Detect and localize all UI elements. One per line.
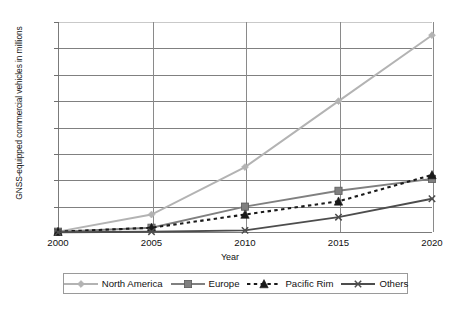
chart-figure: GNSS-equipped commercial vehicles in mil… [0,0,460,309]
y-axis-tick [54,207,59,208]
legend-key-icon [170,278,206,290]
y-axis-tick [54,101,59,102]
x-axis-tick-label: 2000 [28,238,88,248]
legend-label: Europe [209,279,240,289]
legend-item-others[interactable]: Others [340,278,408,290]
legend-label: Others [379,279,408,289]
plot-area [58,22,432,233]
legend-item-north-america[interactable]: North America [63,278,163,290]
legend-key-icon [340,278,376,290]
y-axis-tick [54,233,59,234]
x-axis-title: Year [0,252,460,262]
y-axis-tick [54,128,59,129]
gridline-x [246,22,247,232]
gridline-x [433,22,434,232]
x-axis-tick-label: 2020 [402,238,460,248]
y-axis-tick [54,22,59,23]
gridline-x [153,22,154,232]
y-axis-title: GNSS-equipped commercial vehicles in mil… [14,0,24,228]
legend-key-icon [246,278,282,290]
gridline-x [340,22,341,232]
x-axis-tick-label: 2010 [215,238,275,248]
legend-label: North America [102,279,163,289]
legend-key-icon [63,278,99,290]
y-axis-tick [54,75,59,76]
legend-label: Pacific Rim [285,279,333,289]
y-axis-tick [54,154,59,155]
legend-item-europe[interactable]: Europe [170,278,240,290]
chart-legend: North AmericaEuropePacific RimOthers [63,273,408,294]
y-axis-tick [54,180,59,181]
x-axis-tick-label: 2015 [309,238,369,248]
x-axis-tick-label: 2005 [122,238,182,248]
legend-item-pacific-rim[interactable]: Pacific Rim [246,278,333,290]
y-axis-tick [54,48,59,49]
